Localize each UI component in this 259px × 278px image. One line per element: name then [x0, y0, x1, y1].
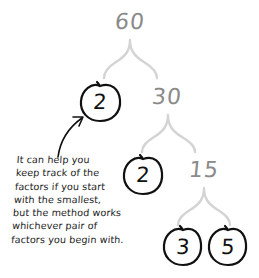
note-line: but the method works	[13, 206, 132, 219]
note-line: keep track of the	[15, 166, 134, 179]
node-prime-3: 3	[170, 235, 196, 259]
branch-15	[178, 188, 230, 225]
note-line: with the smallest,	[14, 193, 133, 206]
note-line: It can help you	[16, 153, 135, 166]
note-line: factors you begin with.	[11, 233, 130, 246]
node-prime-5: 5	[215, 235, 241, 259]
arrow-shaft	[58, 118, 82, 157]
note-line: whichever pair of	[12, 219, 131, 232]
node-60: 60	[111, 10, 150, 34]
note-line: factors if you start	[14, 180, 133, 193]
factor-tree-diagram: 60 2 30 2 15 3 5 It can help you keep tr…	[0, 0, 259, 278]
node-prime-2-level1: 2	[87, 90, 113, 114]
annotation-note: It can help you keep track of the factor…	[11, 153, 136, 246]
branch-60	[104, 40, 157, 78]
branch-30	[142, 115, 195, 152]
node-15: 15	[185, 158, 224, 182]
node-30: 30	[148, 85, 187, 109]
